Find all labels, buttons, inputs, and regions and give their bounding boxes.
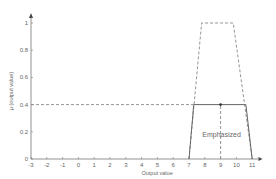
x-tick-label: 8 (203, 162, 207, 168)
x-tick-label: -1 (60, 162, 66, 168)
series-layer (31, 23, 252, 159)
x-tick-label: 1 (93, 162, 97, 168)
x-tick-label: 4 (140, 162, 144, 168)
x-tick-label: 3 (124, 162, 128, 168)
x-tick-label: 10 (233, 162, 240, 168)
x-axis-arrow-icon (259, 157, 263, 161)
x-tick-label: 11 (249, 162, 256, 168)
y-tick-label: 0.2 (20, 129, 29, 135)
y-axis-title: μ (output value) (8, 72, 14, 110)
x-tick-label: 6 (172, 162, 176, 168)
axes: -3-2-10123456789101100.20.40.60.81 (20, 13, 263, 168)
x-tick-label: 5 (156, 162, 160, 168)
x-tick-label: 2 (108, 162, 112, 168)
y-tick-label: 0.8 (20, 47, 29, 53)
x-tick-label: 7 (187, 162, 191, 168)
y-tick-label: 0.4 (20, 102, 29, 108)
x-tick-label: -3 (28, 162, 34, 168)
x-tick-label: 9 (219, 162, 223, 168)
labels-layer: Output valueμ (output value)Emphasized (8, 72, 241, 176)
x-tick-label: 0 (77, 162, 81, 168)
x-tick-label: -2 (44, 162, 50, 168)
y-axis-arrow-icon (29, 13, 33, 18)
y-tick-label: 0.6 (20, 74, 29, 80)
y-tick-label: 1 (25, 20, 29, 26)
x-axis-title: Output value (142, 170, 173, 176)
annotation-label: Emphasized (202, 131, 241, 139)
fuzzy-membership-chart: -3-2-10123456789101100.20.40.60.81 Outpu… (0, 0, 276, 179)
centroid-marker (219, 103, 222, 106)
